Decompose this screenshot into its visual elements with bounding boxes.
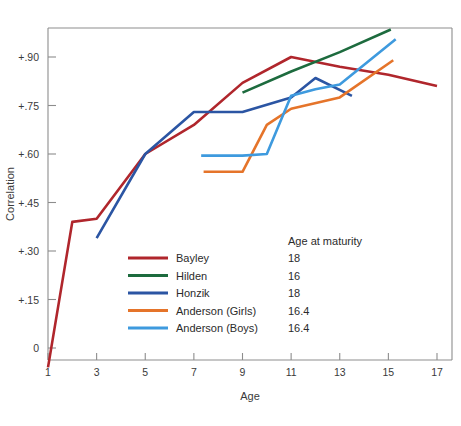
x-tick-label: 3 <box>94 366 100 378</box>
x-axis-tick-labels: 1357911131517 <box>45 366 443 378</box>
legend-maturity-bayley: 18 <box>288 252 300 264</box>
legend-maturity-anderson-girls: 16.4 <box>288 305 309 317</box>
series-line-bayley <box>48 57 437 367</box>
correlation-line-chart: 1357911131517 0+.15+.30+.45+.60+.75+.90 … <box>0 0 461 426</box>
series-line-anderson-boys <box>201 39 396 155</box>
y-tick-label: +.45 <box>18 197 39 209</box>
chart-legend: Age at maturityBayley18Hilden16Honzik18A… <box>128 235 362 334</box>
legend-maturity-honzik: 18 <box>288 287 300 299</box>
y-tick-label: +.60 <box>18 148 39 160</box>
legend-label-bayley: Bayley <box>176 252 210 264</box>
legend-label-honzik: Honzik <box>176 287 210 299</box>
series-line-honzik <box>97 78 352 238</box>
x-tick-label: 11 <box>286 366 297 378</box>
y-tick-label: 0 <box>33 342 39 354</box>
x-tick-label: 7 <box>191 366 197 378</box>
x-tick-label: 13 <box>334 366 346 378</box>
x-axis-title: Age <box>240 390 260 402</box>
legend-label-anderson-boys: Anderson (Boys) <box>176 322 258 334</box>
legend-maturity-hilden: 16 <box>288 270 300 282</box>
legend-label-anderson-girls: Anderson (Girls) <box>176 305 256 317</box>
chart-canvas: 1357911131517 0+.15+.30+.45+.60+.75+.90 … <box>0 0 461 426</box>
y-axis-title: Correlation <box>4 167 16 221</box>
y-axis-tick-labels: 0+.15+.30+.45+.60+.75+.90 <box>18 51 39 354</box>
x-tick-label: 15 <box>383 366 395 378</box>
legend-label-hilden: Hilden <box>176 270 207 282</box>
x-tick-label: 9 <box>240 366 246 378</box>
y-tick-label: +.30 <box>18 245 39 257</box>
y-tick-label: +.90 <box>18 51 39 63</box>
x-tick-label: 17 <box>431 366 443 378</box>
data-series-lines <box>48 30 437 368</box>
legend-header: Age at maturity <box>288 235 362 247</box>
y-tick-label: +.15 <box>18 294 39 306</box>
x-tick-label: 5 <box>142 366 148 378</box>
y-tick-label: +.75 <box>18 100 39 112</box>
x-tick-label: 1 <box>45 366 51 378</box>
legend-maturity-anderson-boys: 16.4 <box>288 322 309 334</box>
